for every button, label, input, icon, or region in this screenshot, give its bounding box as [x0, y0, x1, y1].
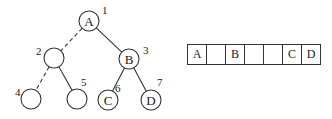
- tree-edge: [61, 28, 82, 50]
- node-circle: [21, 89, 41, 109]
- tree-nodes: A12B345C6D7: [15, 4, 163, 110]
- array-cell: [245, 44, 264, 65]
- node-label: B: [125, 52, 134, 67]
- tree-node: B3: [119, 44, 149, 69]
- binary-tree: A12B345C6D7: [0, 0, 180, 119]
- array-cell: [264, 44, 283, 65]
- tree-edge: [134, 68, 147, 91]
- array-cell: D: [302, 44, 321, 65]
- tree-node: 5: [67, 76, 87, 109]
- tree-edge: [59, 67, 72, 91]
- node-index-label: 5: [81, 76, 87, 88]
- node-index-label: 7: [157, 76, 163, 88]
- node-index-label: 6: [115, 82, 121, 94]
- array-cell: [207, 44, 226, 65]
- sequential-storage-array: A B C D: [187, 44, 321, 65]
- node-index-label: 2: [36, 45, 42, 57]
- tree-node: D7: [141, 76, 163, 110]
- node-circle: [44, 48, 64, 68]
- node-index-label: 4: [15, 86, 21, 98]
- tree-edge: [36, 67, 49, 91]
- node-index-label: 3: [143, 44, 149, 56]
- tree-node: 2: [36, 45, 64, 68]
- tree-node: C6: [98, 82, 121, 110]
- node-label: D: [146, 93, 155, 108]
- node-label: C: [104, 93, 113, 108]
- array-cell: C: [283, 44, 302, 65]
- array-cell: A: [188, 44, 207, 65]
- tree-edge: [96, 28, 122, 52]
- node-label: A: [84, 14, 94, 29]
- array-cell: B: [226, 44, 245, 65]
- node-index-label: 1: [102, 4, 108, 16]
- tree-node: 4: [15, 86, 41, 109]
- tree-node: A1: [79, 4, 108, 31]
- node-circle: [67, 89, 87, 109]
